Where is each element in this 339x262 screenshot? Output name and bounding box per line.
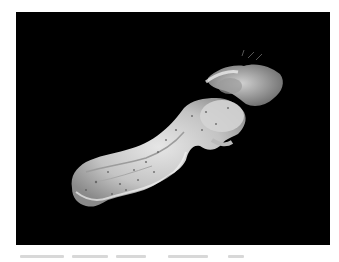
caption-fragment (20, 255, 64, 258)
specimen-photo (16, 12, 330, 245)
specimen-illustration (16, 12, 330, 245)
figure-caption (18, 255, 328, 262)
caption-fragment (116, 255, 146, 258)
caption-fragment (72, 255, 108, 258)
caption-fragment (168, 255, 208, 258)
caption-fragment (228, 255, 244, 258)
